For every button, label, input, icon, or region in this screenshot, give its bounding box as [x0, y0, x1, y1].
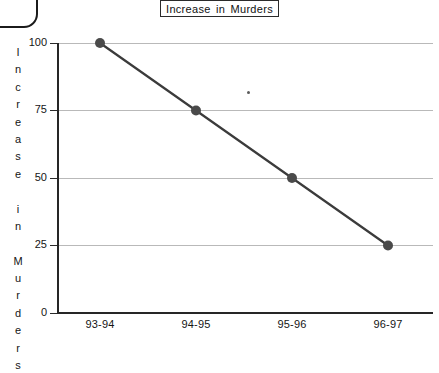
series-line — [100, 43, 388, 246]
y-axis-title-char-17: r — [8, 340, 28, 357]
scan-speck-artifact — [247, 91, 250, 94]
data-point-94-95 — [191, 106, 201, 116]
data-point-95-96 — [287, 173, 297, 183]
data-point-93-94 — [95, 38, 105, 48]
data-point-96-97 — [383, 241, 393, 251]
y-axis-title-char-18: s — [8, 357, 28, 373]
